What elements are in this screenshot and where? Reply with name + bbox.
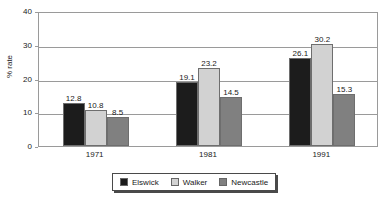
bar-newcastle-1981 [220,97,242,146]
bar-walker-1991 [311,44,333,146]
legend-entry-newcastle[interactable]: Newcastle [219,178,268,187]
legend-swatch-icon [219,178,227,186]
legend-label: Newcastle [231,178,268,187]
legend-entry-walker[interactable]: Walker [171,178,208,187]
legend-swatch-icon [171,178,179,186]
y-tick-label: 10 [10,109,32,117]
bar-elswick-1981 [176,82,198,146]
y-tick-label: 0 [10,143,32,151]
bar-newcastle-1971 [107,117,129,146]
bar-value-label: 8.5 [102,108,134,117]
y-tick-label: 20 [10,76,32,84]
legend-label: Elswick [132,178,159,187]
bars-layer: 12.810.88.519.123.214.526.130.215.3 [39,13,377,146]
bar-walker-1981 [198,68,220,146]
bar-value-label: 15.3 [328,85,360,94]
y-tick-mark [35,147,38,148]
bar-elswick-1991 [289,58,311,146]
bar-value-label: 23.2 [193,59,225,68]
legend-label: Walker [183,178,208,187]
bar-newcastle-1991 [333,94,355,146]
bar-chart: % rate 010203040 12.810.88.519.123.214.5… [0,0,391,199]
x-tick-label: 1971 [38,150,151,159]
y-tick-label: 40 [10,8,32,16]
chart-legend: ElswickWalkerNewcastle [112,173,276,191]
legend-swatch-icon [120,178,128,186]
x-tick-label: 1981 [151,150,264,159]
legend-entry-elswick[interactable]: Elswick [120,178,159,187]
y-tick-label: 30 [10,42,32,50]
bar-value-label: 30.2 [306,35,338,44]
x-tick-label: 1991 [265,150,378,159]
plot-area: 12.810.88.519.123.214.526.130.215.3 [38,12,378,147]
bar-value-label: 14.5 [215,88,247,97]
